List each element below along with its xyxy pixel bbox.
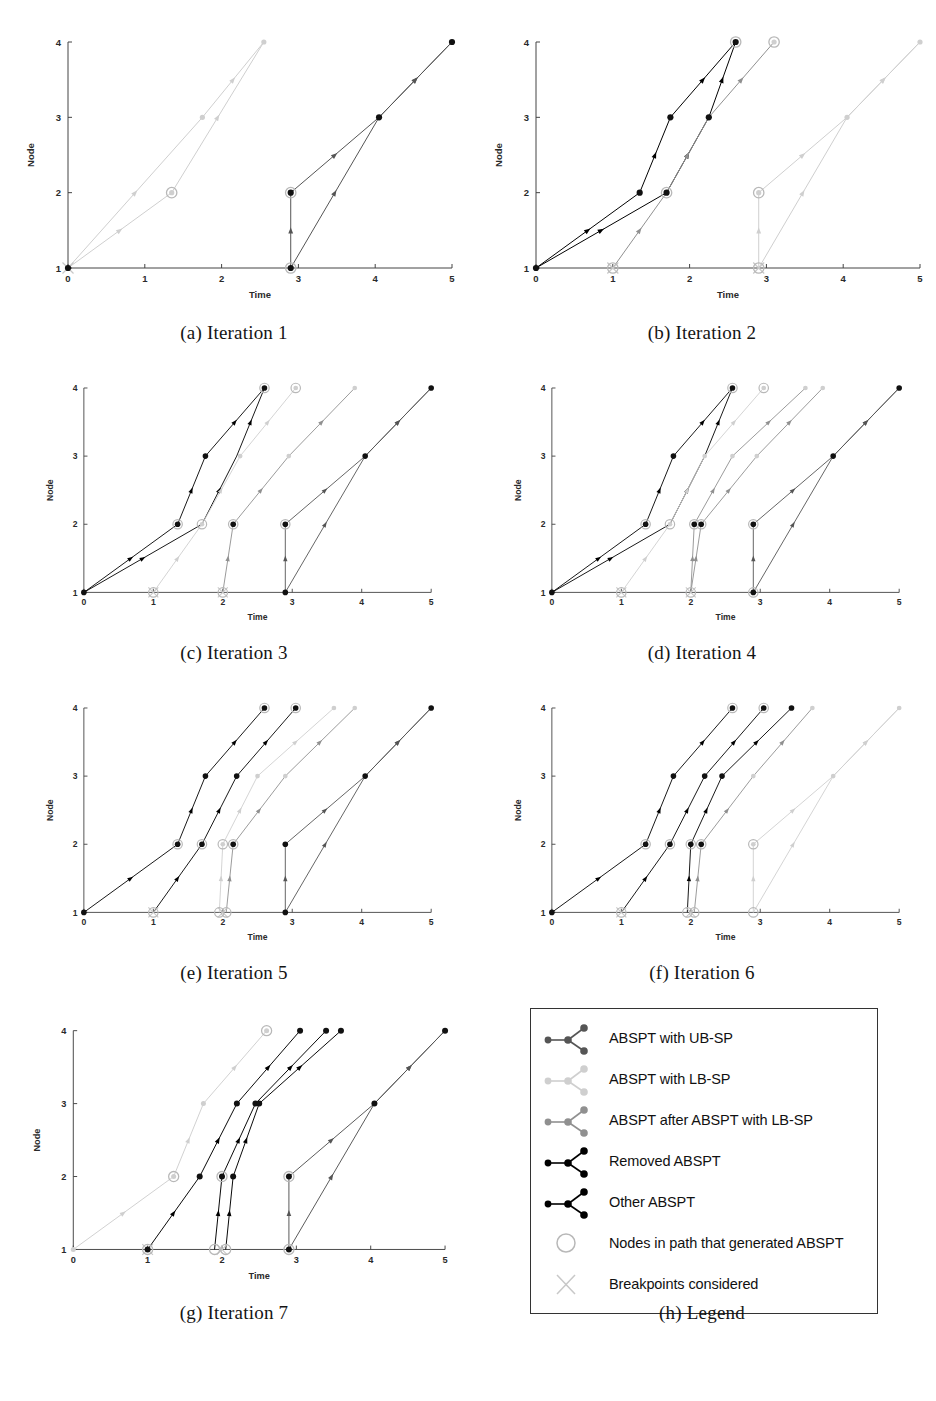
direction-arrow	[227, 1210, 232, 1217]
node-marker	[169, 190, 174, 195]
legend-item-label: Other ABSPT	[609, 1194, 695, 1210]
trajectory-line	[753, 388, 899, 592]
trajectory-line	[285, 708, 431, 912]
y-tick-label: 4	[73, 703, 78, 713]
panel-caption-e: (e) Iteration 5	[0, 962, 468, 984]
y-axis-title: Node	[45, 799, 55, 821]
direction-arrow	[597, 227, 605, 234]
absptree-icon	[531, 1183, 609, 1221]
node-marker	[637, 190, 643, 196]
x-tick-label: 3	[294, 1255, 299, 1265]
node-marker	[220, 842, 225, 847]
node-marker	[200, 115, 205, 120]
plot-c: 0123451234TimeNode	[0, 350, 468, 634]
node-marker	[371, 1101, 377, 1107]
direction-arrow	[283, 875, 287, 881]
node-marker	[789, 705, 795, 711]
direction-arrow	[636, 226, 644, 234]
plot-f: 0123451234TimeNode	[468, 670, 936, 954]
x-tick-label: 5	[442, 1255, 447, 1265]
direction-arrow	[120, 1209, 128, 1216]
direction-arrow	[684, 807, 690, 814]
x-tick-label: 0	[65, 273, 70, 284]
trajectory-line	[219, 708, 334, 912]
x-tick-label: 4	[373, 273, 379, 284]
node-marker	[698, 521, 704, 527]
path-node-circle-icon	[531, 1224, 609, 1262]
node-marker	[203, 453, 209, 459]
chart-svg: 0123451234TimeNode	[0, 990, 468, 1294]
node-marker	[844, 115, 849, 120]
x-tick-label: 1	[619, 597, 624, 607]
direction-arrow	[139, 555, 146, 562]
y-tick-label: 3	[541, 451, 546, 461]
y-tick-label: 3	[524, 112, 529, 123]
node-marker	[262, 705, 268, 711]
trajectory-line	[759, 42, 920, 268]
node-marker	[201, 1101, 206, 1106]
panel-c: 0123451234TimeNode (c) Iteration 3	[0, 350, 468, 670]
trajectory-line	[621, 708, 763, 912]
node-marker	[667, 114, 673, 120]
legend-item-label: ABSPT after ABSPT with LB-SP	[609, 1112, 813, 1128]
node-marker	[917, 39, 922, 44]
trajectory-line	[613, 42, 774, 268]
x-tick-label: 4	[359, 597, 364, 607]
direction-arrow	[751, 555, 755, 561]
direction-arrow	[751, 875, 755, 881]
chart-svg: 0123451234TimeNode	[468, 350, 936, 634]
x-tick-label: 0	[81, 597, 86, 607]
legend-box: ABSPT with UB-SPABSPT with LB-SPABSPT af…	[530, 1008, 878, 1314]
trajectory-line	[753, 708, 899, 912]
plot-d: 0123451234TimeNode	[468, 350, 936, 634]
panel-caption-c: (c) Iteration 3	[0, 642, 468, 664]
node-marker	[820, 386, 825, 391]
node-marker	[283, 774, 288, 779]
node-marker	[286, 454, 291, 459]
legend-wrap: ABSPT with UB-SPABSPT with LB-SPABSPT af…	[468, 990, 936, 1294]
node-marker	[255, 774, 260, 779]
node-marker	[428, 385, 434, 391]
legend-item: Other ABSPT	[531, 1183, 877, 1221]
panel-d: 0123451234TimeNode (d) Iteration 4	[468, 350, 936, 670]
y-tick-label: 2	[541, 839, 546, 849]
direction-arrow	[227, 875, 232, 881]
node-marker	[668, 522, 673, 527]
x-axis-title: Time	[717, 289, 739, 300]
direction-arrow	[584, 227, 592, 235]
trajectory-line	[291, 42, 452, 268]
y-tick-label: 4	[541, 703, 546, 713]
trajectory-line	[68, 42, 264, 268]
node-marker	[702, 773, 708, 779]
node-marker	[730, 385, 736, 391]
panel-b: 0123451234TimeNode (b) Iteration 2	[468, 0, 936, 350]
plot-a: 0123451234TimeNode	[0, 0, 468, 314]
y-tick-label: 1	[524, 263, 530, 274]
x-tick-label: 5	[449, 273, 455, 284]
trajectory-line	[289, 1031, 445, 1250]
y-tick-label: 3	[73, 451, 78, 461]
direction-arrow	[607, 555, 614, 562]
x-axis-title: Time	[249, 1271, 270, 1281]
direction-arrow	[235, 1136, 242, 1144]
node-marker	[428, 705, 434, 711]
node-marker	[81, 590, 87, 596]
x-tick-label: 0	[533, 273, 538, 284]
node-marker	[238, 454, 243, 459]
node-marker	[671, 453, 677, 459]
panel-g: 0123451234TimeNode (g) Iteration 7	[0, 990, 468, 1330]
trajectory-line	[285, 388, 431, 592]
plot-b: 0123451234TimeNode	[468, 0, 936, 314]
x-axis-title: Time	[716, 932, 736, 942]
node-marker	[230, 521, 236, 527]
direction-arrow	[322, 521, 329, 528]
legend-item-label: Breakpoints considered	[609, 1276, 758, 1292]
plot-e: 0123451234TimeNode	[0, 670, 468, 954]
x-tick-label: 5	[429, 917, 434, 927]
direction-arrow	[287, 1210, 292, 1216]
x-tick-label: 5	[429, 597, 434, 607]
x-axis-title: Time	[248, 612, 268, 622]
direction-arrow	[790, 841, 797, 848]
node-marker	[197, 1174, 203, 1180]
node-marker	[756, 190, 761, 195]
